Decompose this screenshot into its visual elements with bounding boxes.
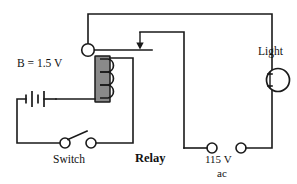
- relay-label: Relay: [135, 152, 166, 165]
- ac-supply-right-terminal: [236, 143, 246, 153]
- switch-label: Switch: [53, 154, 85, 166]
- ac-supply-voltage-label: 115 V: [205, 154, 232, 165]
- battery-lead-wires: [17, 99, 60, 143]
- switch-blade: [68, 131, 87, 140]
- ac-supply-type-label: ac: [217, 168, 227, 179]
- ac-to-light-wire: [246, 86, 272, 148]
- battery-symbol: [26, 91, 44, 107]
- light-bulb-symbol: [267, 69, 290, 92]
- relay-coil-core: [95, 56, 110, 102]
- battery-label: B = 1.5 V: [17, 58, 62, 70]
- ac-supply-left-terminal: [207, 143, 217, 153]
- relay-common-terminal: [82, 44, 95, 57]
- top-wire-to-light: [88, 14, 272, 74]
- relay-actuation-arrow: [136, 32, 143, 50]
- circuit-diagram: B = 1.5 V Switch Relay Light 115 V ac: [0, 0, 297, 184]
- light-label: Light: [258, 46, 283, 58]
- switch-right-terminal: [86, 138, 96, 148]
